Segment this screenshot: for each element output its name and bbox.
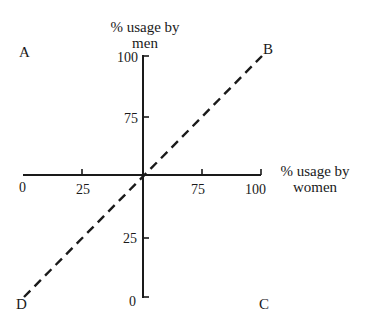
corner-label-c: C: [259, 296, 269, 312]
y-tick-label-0: 0: [129, 294, 136, 310]
x-tick-label-25: 25: [76, 182, 90, 198]
y-axis-title: % usage by men: [100, 19, 190, 51]
x-tick-label-0: 0: [19, 180, 26, 196]
x-axis-title-line2: women: [270, 179, 360, 195]
y-axis-title-line1: % usage by: [100, 19, 190, 35]
y-axis-title-line2: men: [100, 35, 190, 51]
corner-label-d: D: [16, 296, 27, 312]
x-axis-title-line1: % usage by: [270, 163, 360, 179]
x-axis-title: % usage by women: [270, 163, 360, 195]
corner-label-a: A: [19, 44, 30, 60]
y-tick-label-25: 25: [123, 231, 137, 247]
y-tick-label-75: 75: [124, 111, 138, 127]
y-tick-label-100: 100: [117, 50, 138, 66]
x-tick-label-75: 75: [191, 182, 205, 198]
corner-label-b: B: [263, 41, 273, 57]
x-tick-label-100: 100: [245, 182, 266, 198]
